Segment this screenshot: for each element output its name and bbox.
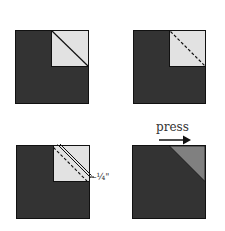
step-1-square — [16, 31, 89, 104]
quilt-corner-diagram: –¼" press — [0, 0, 225, 231]
arrow-right-icon — [159, 136, 191, 145]
press-label: press — [156, 120, 189, 134]
seam-allowance-label: –¼" — [92, 172, 109, 182]
step-4-square: press — [133, 120, 206, 219]
step-3-square: –¼" — [17, 144, 110, 219]
step-2-square — [134, 31, 206, 104]
